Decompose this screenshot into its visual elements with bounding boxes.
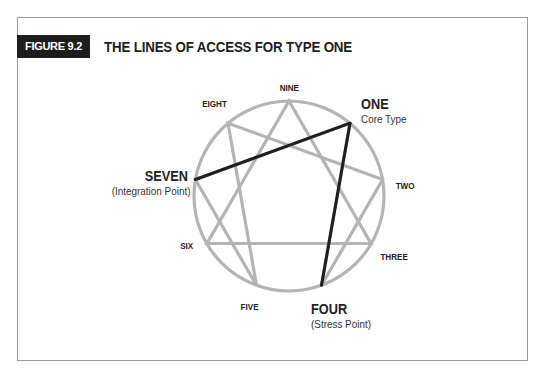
annotation-core-type: Core Type: [361, 113, 407, 125]
point-label-eight: EIGHT: [202, 98, 227, 109]
point-label-three: THREE: [380, 251, 407, 262]
point-label-seven: SEVEN: [145, 167, 188, 184]
point-label-four: FOUR: [311, 300, 347, 317]
enneagram-circle: [194, 101, 384, 291]
triangle-9-3-6: [207, 101, 371, 244]
hexad-lines: [195, 123, 382, 285]
enneagram-diagram: [0, 0, 546, 376]
point-label-five: FIVE: [241, 301, 259, 312]
point-label-one: ONE: [361, 95, 389, 112]
annotation-integration-point: (Integration Point): [111, 185, 190, 197]
point-label-nine: NINE: [280, 82, 299, 93]
annotation-stress-point: (Stress Point): [311, 318, 371, 330]
point-label-six: SIX: [180, 240, 193, 251]
point-label-two: TWO: [396, 180, 415, 191]
